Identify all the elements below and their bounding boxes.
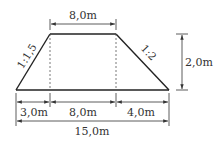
top-dimension: 8,0m (50, 9, 116, 30)
top-width-label: 8,0m (69, 9, 97, 22)
total-width-dimension: 15,0m (17, 121, 168, 138)
segment-label-middle: 8,0m (69, 106, 97, 119)
left-slope-label: 1:1,5 (14, 41, 38, 70)
right-slope-label: 1:2 (139, 42, 159, 63)
segment-label-left: 3,0m (20, 106, 48, 119)
segment-label-right: 4,0m (127, 106, 155, 119)
total-width-label: 15,0m (75, 125, 110, 138)
trapezoid-diagram: 8,0m 2,0m 1:1,5 1:2 3,0m 8,0m 4,0m 15,0m (0, 0, 217, 145)
height-label: 2,0m (185, 56, 213, 69)
height-dimension: 2,0m (176, 34, 213, 90)
right-slope-edge (116, 34, 169, 90)
